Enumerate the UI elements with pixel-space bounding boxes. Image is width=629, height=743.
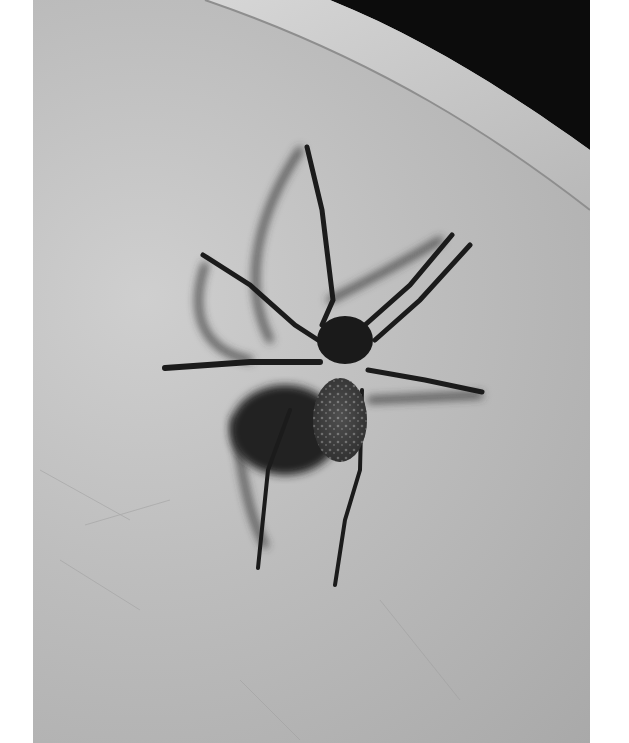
- spider-cephalothorax: [317, 316, 373, 364]
- photo-scene: [33, 0, 590, 743]
- spider-legs: [165, 147, 482, 585]
- spider-photo: [33, 0, 590, 743]
